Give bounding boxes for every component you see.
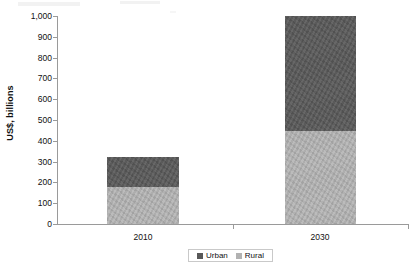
- y-axis-tick-labels: 1,000 900 800 700 600 500 400 300 200 10…: [6, 0, 52, 266]
- bar-segment-rural-2010[interactable]: [107, 187, 179, 224]
- y-tick-label: 300: [6, 158, 52, 167]
- y-tick-label: 1,000: [6, 12, 52, 21]
- x-axis-label-2010: 2010: [83, 232, 203, 242]
- x-tick-mark: [408, 225, 409, 229]
- scan-artifact: [170, 11, 176, 13]
- y-tick-label: 900: [6, 33, 52, 42]
- bar-segment-rural-2030[interactable]: [285, 131, 356, 224]
- y-tick-label: 700: [6, 74, 52, 83]
- y-tick-label: 0: [6, 220, 52, 229]
- y-tick-mark: [53, 224, 58, 225]
- x-axis-label-2030: 2030: [260, 232, 380, 242]
- legend-swatch-urban-icon: [197, 253, 203, 259]
- legend-label-urban: Urban: [206, 252, 228, 260]
- legend-entry-urban[interactable]: Urban: [197, 252, 228, 260]
- y-tick-label: 800: [6, 54, 52, 63]
- bar-stack-2030[interactable]: [285, 16, 356, 224]
- plot-area: [57, 16, 409, 224]
- y-tick-label: 200: [6, 178, 52, 187]
- legend-entry-rural[interactable]: Rural: [236, 252, 264, 260]
- chart-legend: Urban Rural: [188, 249, 273, 262]
- y-tick-label: 100: [6, 199, 52, 208]
- y-tick-label: 400: [6, 137, 52, 146]
- scan-artifact: [120, 1, 160, 4]
- bar-segment-urban-2010[interactable]: [107, 157, 179, 186]
- y-tick-label: 500: [6, 116, 52, 125]
- bar-stack-2010[interactable]: [107, 157, 179, 224]
- y-tick-label: 600: [6, 95, 52, 104]
- legend-swatch-rural-icon: [236, 253, 242, 259]
- legend-label-rural: Rural: [245, 252, 264, 260]
- x-tick-mark: [233, 225, 234, 229]
- stacked-bar-chart: US$, billions 1,000 900 800 700 600 500 …: [0, 0, 413, 266]
- bar-segment-urban-2030[interactable]: [285, 16, 356, 131]
